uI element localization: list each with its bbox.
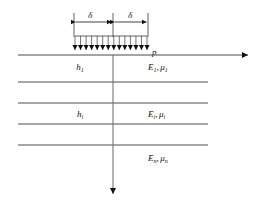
layer-1-labels: h1 E1,μ1 <box>76 62 168 73</box>
layer-n-poisson-subscript: n <box>165 158 168 164</box>
dimension-label-left-delta: δ <box>88 10 93 20</box>
dimension-group: δ δ <box>74 10 148 37</box>
load-arrows <box>75 36 147 50</box>
layer-n-separator: , <box>157 153 159 163</box>
layer-n-property-label: En,μn <box>147 153 168 164</box>
layer-1-property-label: E1,μ1 <box>147 62 168 73</box>
layer-i-poisson-subscript: i <box>163 114 165 120</box>
layer-1-thickness-label: h1 <box>76 62 84 73</box>
layer-i-separator: , <box>155 109 157 119</box>
layer-i-labels: hi Ei,μi <box>77 109 166 120</box>
layered-halfspace-figure: δ δ p h1 E1,μ1 hi <box>0 0 260 205</box>
layer-1-thickness-subscript: 1 <box>81 67 84 73</box>
diagram-canvas: δ δ p h1 E1,μ1 hi <box>0 0 260 205</box>
dimension-label-right-delta: δ <box>128 10 133 20</box>
layer-1-poisson-subscript: 1 <box>165 67 168 73</box>
layer-i-thickness-subscript: i <box>81 114 83 120</box>
distributed-load-group: p <box>75 36 157 57</box>
layer-1-separator: , <box>157 62 159 72</box>
layer-i-property-label: Ei,μi <box>147 109 165 120</box>
layer-n-labels: En,μn <box>147 153 168 164</box>
layer-i-thickness-label: hi <box>77 109 84 120</box>
